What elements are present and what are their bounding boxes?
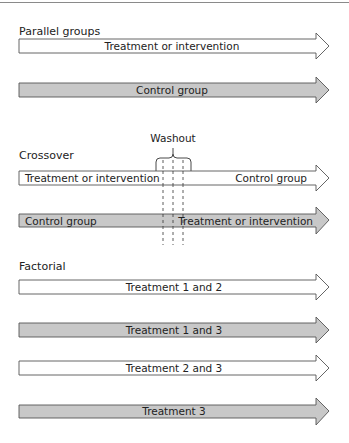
arrow-label-left: Treatment or intervention [24,172,160,184]
arrow-label-right: Treatment or intervention [177,215,313,227]
arrow-label-left: Control group [25,215,97,227]
washout-label: Washout [150,132,195,144]
arrow-factorial-4: Treatment 3 [19,398,329,425]
arrow-label: Control group [136,84,208,96]
arrow-factorial-3: Treatment 2 and 3 [19,355,329,381]
arrow-label: Treatment 1 and 2 [125,281,223,293]
arrow-label-right: Control group [235,172,307,184]
arrow-crossover-2: Control group Treatment or intervention [19,207,329,234]
arrow-label: Treatment or intervention [104,40,240,52]
arrow-factorial-1: Treatment 1 and 2 [19,274,329,300]
arrow-factorial-2: Treatment 1 and 3 [19,317,329,343]
arrow-parallel-treatment: Treatment or intervention [19,33,329,59]
arrow-parallel-control: Control group [19,77,329,103]
washout-brace-icon [156,148,191,172]
arrow-crossover-1: Treatment or intervention Control group [19,165,329,191]
arrow-label: Treatment 1 and 3 [125,324,223,336]
study-design-diagram: Treatment or intervention Control group … [0,0,349,443]
arrow-label: Treatment 3 [141,405,205,417]
arrow-label: Treatment 2 and 3 [125,362,223,374]
